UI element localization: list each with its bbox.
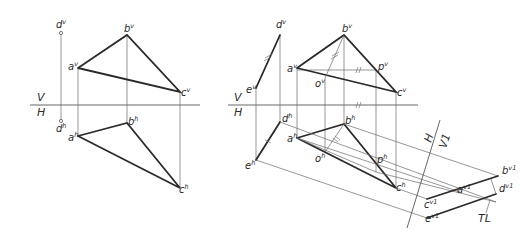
line-dh-eh [256,122,280,160]
label-dv1: dv1 [499,182,513,194]
label-ev1: ev1 [425,212,439,224]
label-cv: cv [397,86,407,98]
label-true-length: TL [478,212,491,225]
label-ov: ov [315,77,325,89]
descriptive-geometry-figure: V H dv bv av cv dh bh ah ch V H [0,0,529,236]
label-av: av [287,62,297,74]
label-bh: bh [345,114,355,126]
left-fold-label-v: V [37,91,46,104]
label-bv: bv [124,22,134,34]
right-fold-label-v: V [234,91,243,104]
label-dv: dv [56,18,66,30]
label-pv: pv [377,60,388,72]
right-view: V H [228,18,516,228]
label-ev: ev [246,83,256,95]
right-fold-label-h: H [234,106,242,119]
line-ev-dv [256,35,280,88]
label-bv: bv [342,22,352,34]
label-cv1: cv1 [424,198,437,210]
label-cv: cv [181,86,191,98]
label-ah: ah [68,131,78,143]
label-ah: ah [287,132,297,144]
line-bv1-dv1 [491,179,496,194]
parallel-marks [356,67,361,108]
point-dv-marker [59,31,62,34]
left-fold-label-h: H [37,106,45,119]
label-eh: eh [245,159,255,171]
label-dh: dh [56,122,66,134]
label-ch: ch [179,183,189,195]
triangle-abc-vertical [78,35,180,92]
equal-marks-bo-horizontal [333,136,340,142]
triangle-abc-horizontal [78,123,180,188]
label-bh: bh [128,115,138,127]
label-bv1: bv1 [502,164,516,176]
left-view: V H dv bv av cv dh bh ah ch [30,18,200,195]
label-ph: ph [376,153,387,165]
label-av: av [68,60,78,72]
label-dv: dv [276,18,286,30]
aux-fold-label-h: H [421,132,436,144]
label-av1: av1 [457,183,471,195]
label-dh: dh [282,112,292,124]
label-oh: oh [315,152,325,164]
aux-fold-label-v1: V1 [436,132,453,150]
